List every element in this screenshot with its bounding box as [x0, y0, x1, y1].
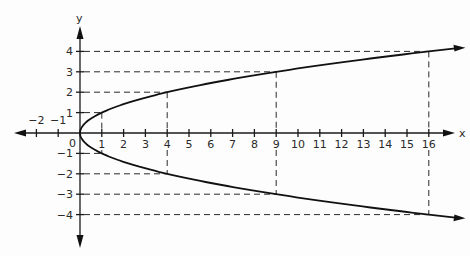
x-tick-label: 13	[356, 138, 370, 151]
x-tick-label: 11	[313, 138, 327, 151]
x-tick-label: 6	[207, 138, 214, 151]
y-axis-down-arrow-icon	[77, 235, 84, 248]
x-tick-label: 5	[186, 138, 193, 151]
y-tick-label: 2	[66, 86, 73, 99]
x-tick-label: 9	[273, 138, 280, 151]
x-tick-label: 12	[335, 138, 349, 151]
x-tick-label: 15	[400, 138, 414, 151]
parabola-diagram: x y 0 −2−1123456789101112131415164321−1−…	[0, 0, 470, 256]
y-axis-up-arrow-icon	[77, 26, 84, 39]
x-tick-label: 4	[164, 138, 171, 151]
x-tick-label: 8	[251, 138, 258, 151]
x-axis-right-arrow-icon	[443, 130, 455, 137]
curve-lower-arrow-icon	[453, 214, 465, 221]
curve-upper-arrow-icon	[453, 45, 465, 52]
x-tick-label: 14	[378, 138, 392, 151]
y-tick-label: −1	[57, 147, 73, 160]
y-tick-label: −2	[57, 168, 73, 181]
axes: x y 0	[14, 12, 466, 248]
x-axis-label: x	[459, 127, 466, 140]
x-tick-label: 3	[142, 138, 149, 151]
y-tick-label: 1	[66, 107, 73, 120]
y-tick-label: −3	[57, 188, 73, 201]
x-tick-label: 2	[120, 138, 127, 151]
x-axis-left-arrow-icon	[14, 130, 26, 137]
x-tick-label: 7	[229, 138, 236, 151]
y-tick-label: −4	[57, 209, 73, 222]
x-tick-label: −2	[28, 114, 44, 127]
x-tick-label: 10	[291, 138, 305, 151]
y-tick-label: 4	[66, 45, 73, 58]
y-axis-label: y	[76, 12, 83, 25]
x-tick-label: −1	[50, 114, 66, 127]
x-tick-label: 1	[98, 138, 105, 151]
x-tick-label: 16	[422, 138, 436, 151]
y-tick-label: 3	[66, 66, 73, 79]
